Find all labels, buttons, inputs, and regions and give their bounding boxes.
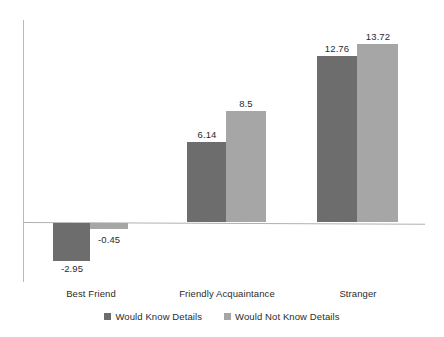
value-label-best-friend-would-not-know-details: -0.45 [98,234,158,245]
bar-stranger-would-know-details [317,56,357,222]
legend-item-would-know-details[interactable]: Would Know Details [104,311,202,322]
legend-swatch-icon-would-know-details [104,313,111,320]
value-label-best-friend-would-know-details: -2.95 [42,263,102,274]
value-label-friendly-acquaintance-would-not-know-details: 8.5 [216,98,276,109]
chart-legend: Would Know Details Would Not Know Detail… [0,311,444,322]
bar-stranger-would-not-know-details [357,44,398,222]
value-label-stranger-would-not-know-details: 13.72 [348,31,408,42]
bar-best-friend-would-not-know-details [90,223,128,229]
plot-area: -2.95 -0.45 6.14 8.5 12.76 13.72 [0,0,444,337]
bar-friendly-acquaintance-would-not-know-details [226,111,266,222]
bar-chart: -2.95 -0.45 6.14 8.5 12.76 13.72 Best Fr… [0,0,444,337]
bar-friendly-acquaintance-would-know-details [187,142,226,222]
legend-label-would-know-details: Would Know Details [115,311,202,322]
category-label-stranger: Stranger [323,288,393,299]
category-label-friendly-acquaintance: Friendly Acquaintance [172,288,282,299]
legend-item-would-not-know-details[interactable]: Would Not Know Details [224,311,339,322]
bar-best-friend-would-know-details [53,223,90,261]
legend-swatch-icon-would-not-know-details [224,313,231,320]
category-label-best-friend: Best Friend [50,288,132,299]
legend-label-would-not-know-details: Would Not Know Details [235,311,339,322]
